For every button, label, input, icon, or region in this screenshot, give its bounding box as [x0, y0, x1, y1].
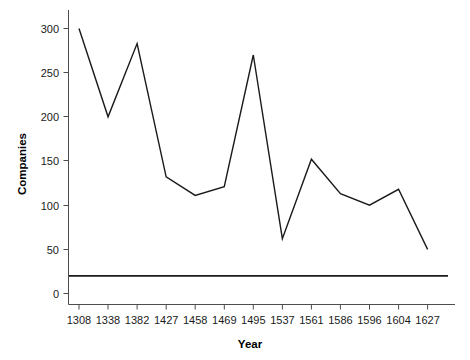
- y-axis-title: Companies: [16, 133, 28, 195]
- y-tick-label: 200: [41, 111, 59, 123]
- y-tick-label: 50: [47, 244, 59, 256]
- chart-background: [0, 0, 470, 360]
- chart-figure: 300 250 200 150 100 50 0 Companies 13081…: [0, 0, 470, 360]
- y-tick-label: 250: [41, 67, 59, 79]
- line-chart: 300 250 200 150 100 50 0 Companies 13081…: [0, 0, 470, 360]
- y-tick-label: 100: [41, 200, 59, 212]
- x-tick-label: 1469: [212, 314, 236, 326]
- x-tick-label: 1382: [125, 314, 149, 326]
- x-axis-title: Year: [238, 338, 263, 350]
- x-tick-label: 1596: [357, 314, 381, 326]
- x-tick-label: 1537: [270, 314, 294, 326]
- x-tick-label: 1338: [96, 314, 120, 326]
- x-tick-label: 1458: [183, 314, 207, 326]
- y-tick-label: 150: [41, 155, 59, 167]
- x-tick-label: 1308: [67, 314, 91, 326]
- x-tick-label: 1561: [299, 314, 323, 326]
- y-tick-label: 0: [53, 288, 59, 300]
- x-tick-label: 1627: [415, 314, 439, 326]
- x-tick-label: 1427: [154, 314, 178, 326]
- y-tick-label: 300: [41, 23, 59, 35]
- x-tick-label: 1495: [241, 314, 265, 326]
- x-tick-label: 1604: [386, 314, 410, 326]
- x-tick-label: 1586: [328, 314, 352, 326]
